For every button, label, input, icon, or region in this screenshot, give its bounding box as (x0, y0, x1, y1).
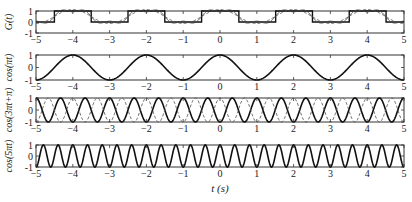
panel-2: 10-1−5−4−3−2−1012345cos(πt) (3, 50, 407, 93)
x-axis-label: t (s) (211, 182, 229, 195)
panel-1: 10-1−5−4−3−2−1012345G(t) (3, 6, 407, 46)
series-line (36, 145, 404, 167)
x-tick-label: −3 (104, 123, 115, 134)
x-tick-label: −3 (104, 34, 115, 45)
x-tick-label: 5 (402, 168, 407, 179)
y-axis-label: G(t) (3, 13, 15, 30)
x-tick-label: −1 (178, 168, 189, 179)
y-axis-label: cos(πt) (3, 53, 15, 81)
x-tick-label: 1 (254, 34, 259, 45)
x-tick-label: 0 (218, 34, 223, 45)
x-tick-label: 3 (328, 34, 333, 45)
x-tick-label: −1 (178, 81, 189, 92)
y-tick-label: 0 (28, 17, 33, 28)
y-tick-label: 0 (28, 62, 33, 73)
x-tick-label: −4 (67, 168, 78, 179)
y-tick-label: 1 (28, 140, 33, 151)
x-tick-label: 1 (254, 168, 259, 179)
y-tick-label: 1 (28, 93, 33, 104)
y-tick-label: 0 (28, 151, 33, 162)
x-tick-label: −2 (141, 34, 152, 45)
x-tick-label: −2 (141, 123, 152, 134)
series-line (36, 55, 404, 80)
x-tick-label: 2 (291, 123, 296, 134)
x-tick-label: 4 (365, 123, 370, 134)
x-tick-label: 3 (328, 123, 333, 134)
chart-figure: 10-1−5−4−3−2−1012345G(t)10-1−5−4−3−2−101… (0, 0, 412, 202)
x-tick-label: −1 (178, 123, 189, 134)
x-tick-label: 1 (254, 81, 259, 92)
x-tick-label: 5 (402, 81, 407, 92)
x-tick-label: −2 (141, 81, 152, 92)
x-tick-label: 0 (218, 168, 223, 179)
x-tick-label: −4 (67, 123, 78, 134)
x-tick-label: −5 (31, 168, 42, 179)
x-tick-label: −4 (67, 34, 78, 45)
x-tick-label: −2 (141, 168, 152, 179)
x-tick-label: −4 (67, 81, 78, 92)
panel-4: 10-1−5−4−3−2−1012345cos(5πt) (3, 139, 407, 179)
y-tick-label: 1 (28, 50, 33, 61)
x-tick-label: −5 (31, 34, 42, 45)
x-tick-label: 3 (328, 168, 333, 179)
x-tick-label: 5 (402, 123, 407, 134)
x-tick-label: −5 (31, 81, 42, 92)
x-tick-label: 5 (402, 34, 407, 45)
y-tick-label: 1 (28, 6, 33, 17)
y-axis-label: cos(5πt) (3, 139, 15, 172)
x-tick-label: 4 (365, 34, 370, 45)
x-tick-label: 2 (291, 34, 296, 45)
x-tick-label: 2 (291, 81, 296, 92)
x-tick-label: −3 (104, 81, 115, 92)
x-tick-label: 4 (365, 81, 370, 92)
x-tick-label: 2 (291, 168, 296, 179)
x-tick-label: 4 (365, 168, 370, 179)
x-tick-label: 3 (328, 81, 333, 92)
panel-3: 10-1−5−4−3−2−1012345cos(3πt+π) (3, 87, 407, 134)
x-tick-label: 0 (218, 123, 223, 134)
x-tick-label: −1 (178, 34, 189, 45)
x-tick-label: −3 (104, 168, 115, 179)
x-tick-label: −5 (31, 123, 42, 134)
x-tick-label: 0 (218, 81, 223, 92)
x-tick-label: 1 (254, 123, 259, 134)
y-tick-label: 0 (28, 105, 33, 116)
y-axis-label: cos(3πt+π) (3, 87, 15, 132)
